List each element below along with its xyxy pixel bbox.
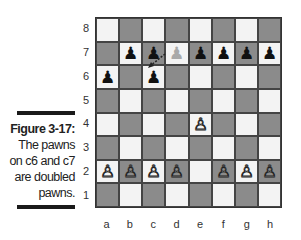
black-pawn-icon[interactable]: ♟ [239, 45, 254, 62]
white-pawn-icon[interactable]: ♙ [239, 163, 254, 180]
square-d1[interactable] [165, 183, 188, 207]
square-b4[interactable] [119, 113, 142, 137]
square-b1[interactable] [119, 183, 142, 207]
square-e5[interactable] [189, 89, 212, 113]
square-h1[interactable] [258, 183, 281, 207]
square-h8[interactable] [258, 18, 281, 42]
square-e8[interactable] [189, 18, 212, 42]
black-pawn-icon[interactable]: ♟ [262, 45, 277, 62]
square-b2[interactable]: ♙ [119, 160, 142, 184]
caption-bottom-rule [17, 205, 75, 209]
square-d2[interactable]: ♙ [165, 160, 188, 184]
white-pawn-icon[interactable]: ♙ [193, 116, 208, 133]
file-label: f [212, 218, 235, 230]
square-g8[interactable] [235, 18, 258, 42]
caption-line: on c6 and c7 [6, 153, 75, 169]
square-f3[interactable] [212, 136, 235, 160]
square-a8[interactable] [96, 18, 119, 42]
square-d4[interactable] [165, 113, 188, 137]
square-a1[interactable] [96, 183, 119, 207]
rank-label: 4 [80, 117, 92, 129]
square-b6[interactable] [119, 65, 142, 89]
square-a7[interactable] [96, 42, 119, 66]
square-c7[interactable]: ♟ [142, 42, 165, 66]
square-e6[interactable] [189, 65, 212, 89]
white-pawn-icon[interactable]: ♙ [146, 163, 161, 180]
square-f1[interactable] [212, 183, 235, 207]
square-c4[interactable] [142, 113, 165, 137]
square-e3[interactable] [189, 136, 212, 160]
file-label: b [118, 218, 141, 230]
white-pawn-icon[interactable]: ♙ [123, 163, 138, 180]
file-label: h [259, 218, 282, 230]
square-f2[interactable]: ♙ [212, 160, 235, 184]
figure-caption: Figure 3-17: The pawns on c6 and c7 are … [6, 121, 75, 201]
square-g3[interactable] [235, 136, 258, 160]
square-g1[interactable] [235, 183, 258, 207]
square-f7[interactable]: ♟ [212, 42, 235, 66]
file-label: c [142, 218, 165, 230]
rank-label: 3 [80, 141, 92, 153]
black-pawn-icon[interactable]: ♟ [146, 45, 161, 62]
square-d7[interactable]: ♟ [165, 42, 188, 66]
square-h4[interactable] [258, 113, 281, 137]
square-e1[interactable] [189, 183, 212, 207]
square-d6[interactable] [165, 65, 188, 89]
square-h6[interactable] [258, 65, 281, 89]
square-e4[interactable]: ♙ [189, 113, 212, 137]
square-c5[interactable] [142, 89, 165, 113]
black-pawn-icon[interactable]: ♟ [146, 69, 161, 86]
square-a4[interactable] [96, 113, 119, 137]
white-pawn-icon[interactable]: ♙ [216, 163, 231, 180]
square-b8[interactable] [119, 18, 142, 42]
file-label: g [235, 218, 258, 230]
white-pawn-icon[interactable]: ♙ [262, 163, 277, 180]
chess-board: ♟♟♟♟♟♟♟♟♟♙♙♙♙♙♙♙♙ [95, 17, 282, 208]
rank-label: 1 [80, 189, 92, 201]
square-f5[interactable] [212, 89, 235, 113]
black-pawn-icon[interactable]: ♟ [123, 45, 138, 62]
figure-label: Figure 3-17: [6, 121, 75, 137]
square-c6[interactable]: ♟ [142, 65, 165, 89]
black-pawn-icon[interactable]: ♟ [216, 45, 231, 62]
square-h2[interactable]: ♙ [258, 160, 281, 184]
square-d5[interactable] [165, 89, 188, 113]
square-g7[interactable]: ♟ [235, 42, 258, 66]
square-d8[interactable] [165, 18, 188, 42]
square-d3[interactable] [165, 136, 188, 160]
square-g2[interactable]: ♙ [235, 160, 258, 184]
square-b5[interactable] [119, 89, 142, 113]
square-c3[interactable] [142, 136, 165, 160]
caption-line: The pawns [6, 137, 75, 153]
square-h7[interactable]: ♟ [258, 42, 281, 66]
square-b3[interactable] [119, 136, 142, 160]
rank-label: 8 [80, 22, 92, 34]
black-pawn-icon[interactable]: ♟ [100, 69, 115, 86]
square-f6[interactable] [212, 65, 235, 89]
square-e7[interactable]: ♟ [189, 42, 212, 66]
square-h5[interactable] [258, 89, 281, 113]
caption-top-rule [17, 111, 75, 115]
square-g6[interactable] [235, 65, 258, 89]
square-g4[interactable] [235, 113, 258, 137]
file-label: d [165, 218, 188, 230]
black-pawn-icon[interactable]: ♟ [193, 45, 208, 62]
square-f8[interactable] [212, 18, 235, 42]
square-c2[interactable]: ♙ [142, 160, 165, 184]
square-h3[interactable] [258, 136, 281, 160]
square-f4[interactable] [212, 113, 235, 137]
white-pawn-icon[interactable]: ♙ [169, 163, 184, 180]
square-c1[interactable] [142, 183, 165, 207]
rank-label: 5 [80, 94, 92, 106]
square-b7[interactable]: ♟ [119, 42, 142, 66]
square-a5[interactable] [96, 89, 119, 113]
square-a6[interactable]: ♟ [96, 65, 119, 89]
file-label: a [95, 218, 118, 230]
square-e2[interactable] [189, 160, 212, 184]
square-g5[interactable] [235, 89, 258, 113]
square-c8[interactable] [142, 18, 165, 42]
white-pawn-icon[interactable]: ♙ [100, 163, 115, 180]
square-a2[interactable]: ♙ [96, 160, 119, 184]
square-a3[interactable] [96, 136, 119, 160]
ghost-pawn-icon[interactable]: ♟ [169, 45, 184, 62]
